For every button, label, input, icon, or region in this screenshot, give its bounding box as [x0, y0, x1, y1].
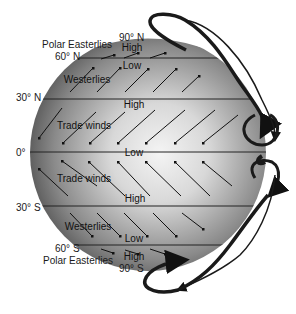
north-cap-mask	[0, 0, 296, 36]
label-polar-easterlies-north: Polar Easterlies	[42, 39, 112, 50]
lat-label-60s: 60° S	[55, 243, 80, 254]
lat-label-30n: 30° N	[16, 92, 41, 103]
label-polar-easterlies-south: Polar Easterlies	[43, 255, 113, 266]
pressure-30n: High	[124, 99, 145, 110]
lat-label-30s: 30° S	[16, 202, 41, 213]
lat-label-90n: 90° N	[119, 32, 144, 43]
wind-circulation-diagram: High Low High Low High Low High Westerli…	[0, 0, 296, 314]
pressure-60n: Low	[123, 60, 142, 71]
label-trade-winds-north: Trade winds	[57, 120, 111, 131]
lat-label-90s: 90° S	[119, 263, 144, 274]
label-trade-winds-south: Trade winds	[57, 173, 111, 184]
pressure-equator: Low	[125, 147, 144, 158]
pressure-south-pole: High	[124, 251, 145, 262]
label-westerlies-south: Westerlies	[65, 221, 112, 232]
pressure-30s: High	[125, 193, 146, 204]
pressure-north-pole: High	[122, 42, 143, 53]
lat-label-60n: 60° N	[55, 51, 80, 62]
lat-label-equator: 0°	[16, 147, 26, 158]
label-westerlies-north: Westerlies	[64, 74, 111, 85]
pressure-60s: Low	[125, 233, 144, 244]
